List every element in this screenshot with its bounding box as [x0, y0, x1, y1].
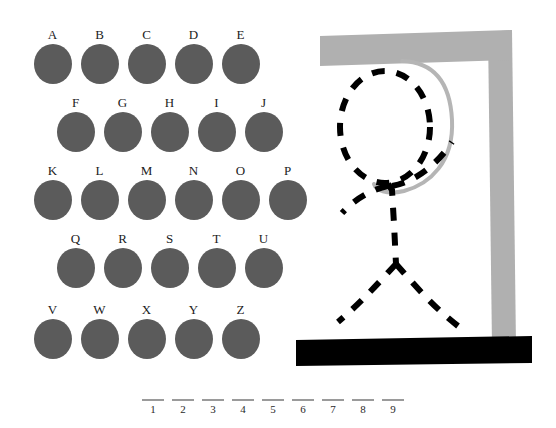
- letter-label-x: X: [142, 303, 151, 317]
- answer-blank-1[interactable]: 1: [138, 399, 168, 415]
- letter-disc-j[interactable]: [245, 112, 283, 152]
- letter-disc-m[interactable]: [128, 180, 166, 220]
- letter-label-d: D: [189, 28, 198, 42]
- letter-disc-d[interactable]: [175, 44, 213, 84]
- blank-line-3: [202, 399, 224, 401]
- hangman-game: A B C D E F: [0, 0, 556, 428]
- blank-number-1: 1: [150, 403, 156, 415]
- letter-button-y[interactable]: Y: [170, 303, 217, 359]
- letter-label-o: O: [236, 164, 245, 178]
- letter-button-r[interactable]: R: [99, 232, 146, 288]
- letter-disc-s[interactable]: [151, 248, 189, 288]
- letter-disc-k[interactable]: [34, 180, 72, 220]
- letter-label-r: R: [118, 232, 127, 246]
- blank-line-8: [352, 399, 374, 401]
- gallows-svg: [280, 14, 556, 374]
- answer-blank-4[interactable]: 4: [228, 399, 258, 415]
- letter-disc-e[interactable]: [222, 44, 260, 84]
- figure-head-shape: [340, 71, 430, 183]
- letter-label-j: J: [261, 96, 266, 110]
- answer-blank-9[interactable]: 9: [378, 399, 408, 415]
- letter-button-b[interactable]: B: [76, 28, 123, 84]
- letter-disc-a[interactable]: [34, 44, 72, 84]
- letter-disc-f[interactable]: [57, 112, 95, 152]
- letter-row-f-j: F G H I J: [52, 96, 287, 152]
- blank-number-4: 4: [240, 403, 246, 415]
- letter-button-k[interactable]: K: [29, 164, 76, 220]
- letter-button-h[interactable]: H: [146, 96, 193, 152]
- letter-disc-g[interactable]: [104, 112, 142, 152]
- letter-button-s[interactable]: S: [146, 232, 193, 288]
- letter-disc-n[interactable]: [175, 180, 213, 220]
- letter-button-t[interactable]: T: [193, 232, 240, 288]
- letter-button-v[interactable]: V: [29, 303, 76, 359]
- letter-disc-w[interactable]: [81, 319, 119, 359]
- letter-label-i: I: [214, 96, 218, 110]
- letter-button-z[interactable]: Z: [217, 303, 264, 359]
- letter-disc-z[interactable]: [222, 319, 260, 359]
- letter-label-a: A: [48, 28, 57, 42]
- blank-line-6: [292, 399, 314, 401]
- blank-line-1: [142, 399, 164, 401]
- letter-label-k: K: [48, 164, 57, 178]
- gallows-illustration: [280, 14, 556, 374]
- letter-disc-h[interactable]: [151, 112, 189, 152]
- blank-number-8: 8: [360, 403, 366, 415]
- letter-disc-b[interactable]: [81, 44, 119, 84]
- letter-button-f[interactable]: F: [52, 96, 99, 152]
- letter-button-m[interactable]: M: [123, 164, 170, 220]
- blank-number-2: 2: [180, 403, 186, 415]
- letter-disc-c[interactable]: [128, 44, 166, 84]
- letter-label-h: H: [165, 96, 174, 110]
- letter-keyboard: A B C D E F: [0, 0, 300, 385]
- letter-button-d[interactable]: D: [170, 28, 217, 84]
- letter-button-i[interactable]: I: [193, 96, 240, 152]
- letter-button-l[interactable]: L: [76, 164, 123, 220]
- letter-disc-q[interactable]: [57, 248, 95, 288]
- figure-left-arm-shape: [342, 186, 388, 213]
- answer-blank-7[interactable]: 7: [318, 399, 348, 415]
- letter-label-s: S: [166, 232, 173, 246]
- answer-blank-5[interactable]: 5: [258, 399, 288, 415]
- letter-label-u: U: [259, 232, 268, 246]
- letter-disc-t[interactable]: [198, 248, 236, 288]
- gallows-base-shape: [296, 336, 532, 366]
- blank-number-3: 3: [210, 403, 216, 415]
- letter-button-a[interactable]: A: [29, 28, 76, 84]
- letter-disc-y[interactable]: [175, 319, 213, 359]
- letter-label-y: Y: [189, 303, 198, 317]
- gallows-crossbeam-shape: [320, 30, 512, 66]
- letter-label-v: V: [48, 303, 57, 317]
- letter-label-t: T: [213, 232, 221, 246]
- figure-right-leg-shape: [396, 264, 458, 326]
- answer-blank-2[interactable]: 2: [168, 399, 198, 415]
- blank-line-9: [382, 399, 404, 401]
- letter-button-o[interactable]: O: [217, 164, 264, 220]
- letter-button-q[interactable]: Q: [52, 232, 99, 288]
- letter-label-c: C: [142, 28, 151, 42]
- letter-button-n[interactable]: N: [170, 164, 217, 220]
- letter-button-g[interactable]: G: [99, 96, 146, 152]
- answer-blank-3[interactable]: 3: [198, 399, 228, 415]
- letter-disc-r[interactable]: [104, 248, 142, 288]
- letter-button-x[interactable]: X: [123, 303, 170, 359]
- answer-blank-6[interactable]: 6: [288, 399, 318, 415]
- figure-torso-shape: [388, 184, 396, 264]
- letter-button-e[interactable]: E: [217, 28, 264, 84]
- letter-row-a-e: A B C D E: [29, 28, 264, 84]
- letter-disc-l[interactable]: [81, 180, 119, 220]
- figure-left-leg-shape: [338, 264, 396, 322]
- gallows-post-shape: [488, 30, 516, 346]
- letter-label-b: B: [95, 28, 104, 42]
- letter-disc-o[interactable]: [222, 180, 260, 220]
- letter-disc-x[interactable]: [128, 319, 166, 359]
- letter-button-w[interactable]: W: [76, 303, 123, 359]
- letter-disc-u[interactable]: [245, 248, 283, 288]
- letter-disc-i[interactable]: [198, 112, 236, 152]
- blank-line-5: [262, 399, 284, 401]
- letter-disc-v[interactable]: [34, 319, 72, 359]
- letter-row-q-u: Q R S T U: [52, 232, 287, 288]
- letter-button-c[interactable]: C: [123, 28, 170, 84]
- letter-label-m: M: [141, 164, 153, 178]
- answer-blank-8[interactable]: 8: [348, 399, 378, 415]
